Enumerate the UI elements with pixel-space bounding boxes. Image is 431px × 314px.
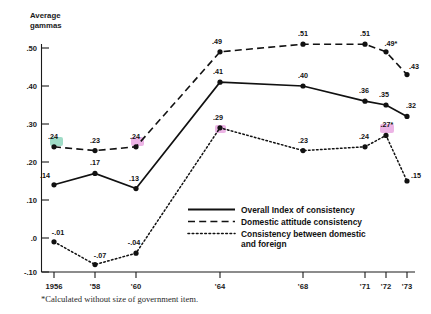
data-point: [300, 148, 305, 153]
y-axis-title-line2: gammas: [30, 21, 62, 30]
data-point-label: .49*: [385, 39, 398, 48]
data-point: [404, 72, 409, 77]
y-tick-label: .10: [26, 196, 37, 205]
data-point-label: .43: [409, 62, 419, 71]
legend-label-between-cont: and foreign: [241, 239, 287, 249]
data-point: [217, 125, 222, 130]
data-point: [404, 178, 409, 183]
data-point-label: .32: [406, 101, 416, 110]
data-point: [92, 262, 97, 267]
legend-label-overall: Overall Index of consistency: [241, 205, 355, 215]
series-line-dotted: [54, 128, 407, 265]
data-point-label: .14: [40, 171, 50, 180]
data-point-label: .36: [359, 86, 369, 95]
x-tick-label: '64: [215, 282, 226, 291]
data-point: [217, 49, 222, 54]
data-point-label: .51: [360, 29, 370, 38]
x-tick-label: 1956: [46, 282, 63, 291]
y-tick-label: .0: [31, 234, 37, 243]
y-axis-ticks: [42, 48, 50, 272]
data-point-label: .24: [48, 132, 58, 141]
data-point: [51, 144, 56, 149]
y-tick-label: .40: [26, 82, 37, 91]
data-point-label: .27*: [381, 120, 394, 129]
data-point-label: .17: [90, 158, 100, 167]
data-point: [51, 239, 56, 244]
data-point-label: .51: [298, 29, 308, 38]
y-axis-tick-labels: .50 .40 .30 .20 .10 .0 -.10: [24, 44, 37, 277]
data-point-label: .35: [379, 90, 389, 99]
y-axis-title-line1: Average: [30, 11, 61, 20]
data-point-label: .49: [212, 37, 222, 46]
data-point: [217, 80, 222, 85]
data-point-label: .24: [130, 132, 140, 141]
x-tick-label: '73: [402, 282, 412, 291]
data-point-labels: .14.17.13.41.40.36.35.32.24.23.24.49.51.…: [40, 29, 421, 259]
series-line-dashed: [54, 44, 407, 150]
x-tick-label: '72: [381, 282, 391, 291]
data-point: [133, 186, 138, 191]
data-point: [404, 114, 409, 119]
data-point: [92, 148, 97, 153]
chart-container: Average gammas .50 .40 .30 .20 .10 .0 -.…: [0, 0, 431, 314]
data-point-label: -.01: [52, 228, 64, 237]
data-point-label: -.04: [128, 238, 140, 247]
legend: Overall Index of consistency Domestic at…: [188, 205, 366, 249]
data-point: [92, 171, 97, 176]
data-point-label: -.07: [94, 251, 106, 260]
data-point: [133, 144, 138, 149]
y-tick-label: -.10: [24, 268, 37, 277]
data-point: [133, 251, 138, 256]
data-point-label: .24: [359, 132, 369, 141]
data-point: [383, 102, 388, 107]
legend-label-domestic: Domestic attitude consistency: [241, 217, 362, 227]
data-point: [362, 42, 367, 47]
x-axis-ticks: [54, 272, 407, 278]
x-tick-label: '58: [90, 282, 100, 291]
data-point: [383, 133, 388, 138]
line-chart: Average gammas .50 .40 .30 .20 .10 .0 -.…: [0, 0, 431, 314]
footnote: *Calculated without size of government i…: [41, 294, 198, 304]
x-tick-label: '71: [360, 282, 371, 291]
series-line-solid: [54, 82, 407, 188]
data-point: [383, 49, 388, 54]
x-axis-tick-labels: 1956 '58 '60 '64 '68 '71 '72 '73: [46, 282, 413, 291]
legend-label-between: Consistency between domestic: [241, 229, 366, 239]
y-tick-label: .20: [26, 158, 37, 167]
data-point-label: .29: [213, 113, 223, 122]
data-point-label: .23: [90, 136, 100, 145]
data-point: [362, 144, 367, 149]
y-tick-label: .50: [26, 44, 37, 53]
data-point-label: .15: [411, 171, 421, 180]
data-point: [51, 182, 56, 187]
data-point: [362, 99, 367, 104]
data-point-label: .41: [213, 67, 223, 76]
data-point-label: .13: [129, 174, 139, 183]
y-tick-label: .30: [26, 120, 37, 129]
data-point: [300, 83, 305, 88]
data-point: [300, 42, 305, 47]
x-tick-label: '68: [298, 282, 308, 291]
x-tick-label: '60: [131, 282, 141, 291]
data-point-label: .40: [298, 71, 308, 80]
data-point-label: .23: [298, 136, 308, 145]
